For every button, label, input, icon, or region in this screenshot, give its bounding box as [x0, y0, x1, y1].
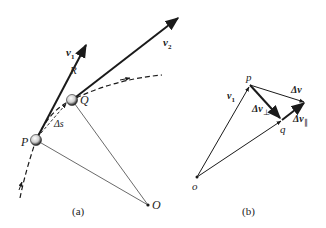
label-P: P: [20, 135, 29, 149]
caption-a: (a): [72, 205, 85, 218]
radius-line-PO: [36, 140, 148, 205]
label-delta-v-perp: Δv⊥: [251, 103, 270, 117]
point-o: [196, 176, 199, 179]
figure-a: P Q O R Δs v1 v2 (a): [19, 18, 178, 218]
trajectory-curve: [20, 75, 162, 198]
kinematics-diagram: P Q O R Δs v1 v2 (a) o p q v1 Δv Δv⊥ Δv∥…: [0, 0, 326, 228]
velocity-v2-arrow: [72, 18, 178, 100]
label-p: p: [245, 71, 252, 83]
label-R: R: [69, 64, 77, 76]
particle-Q: [67, 95, 78, 106]
label-delta-s: Δs: [53, 118, 64, 129]
label-O: O: [152, 198, 161, 212]
particle-P: [31, 135, 42, 146]
label-v1: v1: [66, 46, 75, 61]
trajectory-arrow-upper: [120, 78, 130, 80]
label-Q: Q: [80, 93, 89, 107]
label-o: o: [192, 180, 198, 192]
label-v2: v2: [163, 36, 172, 51]
radius-line-QO: [72, 100, 148, 205]
label-q: q: [280, 123, 286, 135]
vector-v2-oq: [197, 121, 281, 177]
label-delta-v: Δv: [290, 84, 302, 95]
label-delta-v-par: Δv∥: [292, 113, 308, 127]
label-v1-b: v1: [227, 90, 235, 104]
caption-b: (b): [242, 205, 255, 218]
figure-b: o p q v1 Δv Δv⊥ Δv∥ (b): [192, 71, 308, 218]
vector-v1-op: [197, 87, 249, 177]
center-O: [146, 203, 149, 206]
